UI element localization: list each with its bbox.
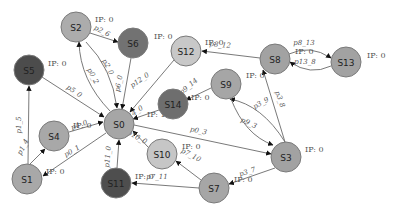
node-label: S0 <box>113 120 125 130</box>
node-s4[interactable]: S4IP: 0 <box>39 121 92 151</box>
node-ip-label: IP: 0 <box>305 145 324 154</box>
node-label: S11 <box>107 179 124 189</box>
edge-label: p0_2 <box>85 67 100 86</box>
node-label: S14 <box>164 100 181 110</box>
edge-label: p9_3 <box>240 116 259 131</box>
edge-label: p2_0 <box>100 58 115 77</box>
node-s5[interactable]: S5IP: 0 <box>14 55 67 85</box>
edge-label: p6_0 <box>114 74 125 93</box>
network-diagram: p2_6p2_0p0_2p6_0p12_0p5_0p14_0p1_5p1_4p4… <box>0 0 396 213</box>
node-s13[interactable]: S13IP: 0 <box>331 47 386 77</box>
nodes-layer: S0IP: 1S1IP: 0S2IP: 0S3IP: 0S4IP: 0S5IP:… <box>12 12 386 203</box>
edge-p11-0 <box>117 140 119 168</box>
edge-label: p3_9 <box>252 95 271 111</box>
node-label: S3 <box>280 153 291 163</box>
node-label: S7 <box>208 184 219 194</box>
node-label: S13 <box>337 58 354 68</box>
node-ip-label: IP: 0 <box>182 142 201 151</box>
node-label: S9 <box>220 80 232 90</box>
node-ip-label: IP: 0 <box>95 15 114 24</box>
edge-p1-4 <box>30 149 45 164</box>
node-ip-label: IP: 0 <box>191 93 210 102</box>
node-ip-label: IP: 0 <box>48 59 67 68</box>
edge-label: p13_8 <box>294 58 316 66</box>
edge-p7-11 <box>132 183 199 188</box>
node-label: S10 <box>153 150 170 160</box>
edge-p7-10 <box>176 161 201 180</box>
node-s3[interactable]: S3IP: 0 <box>271 142 324 172</box>
node-ip-label: IP: 0 <box>135 172 154 181</box>
node-label: S5 <box>23 66 34 76</box>
node-label: S6 <box>127 39 139 49</box>
edge-label: p8_13 <box>293 39 315 47</box>
node-label: S2 <box>70 23 81 33</box>
node-ip-label: IP: 0 <box>154 32 173 41</box>
node-ip-label: IP: 0 <box>73 121 92 130</box>
node-ip-label: IP: 0 <box>234 175 253 184</box>
node-label: S4 <box>48 132 60 142</box>
node-s7[interactable]: S7IP: 0 <box>199 173 253 203</box>
node-label: S12 <box>177 47 194 57</box>
edge-label: p0_3 <box>189 125 208 136</box>
node-ip-label: IP: 0 <box>367 51 386 60</box>
node-s11[interactable]: S11IP: 0 <box>101 168 154 198</box>
node-ip-label: IP: 0 <box>295 47 314 56</box>
edge-label: p5_0 <box>65 83 84 100</box>
edge-p8-12 <box>202 51 260 58</box>
node-s9[interactable]: S9IP: 0 <box>211 69 265 99</box>
edge-label: p11_0 <box>103 145 113 168</box>
edge-label: p12_0 <box>129 71 152 90</box>
node-s12[interactable]: S12IP: 0 <box>171 36 224 66</box>
edge-label: p1_5 <box>15 116 23 133</box>
edge-p1-5 <box>28 86 29 164</box>
node-label: S8 <box>269 55 281 65</box>
node-s6[interactable]: S6IP: 0 <box>118 28 173 58</box>
node-s14[interactable]: S14IP: 0 <box>158 89 210 119</box>
node-ip-label: IP: 0 <box>246 71 265 80</box>
edge-label: p3_8 <box>273 90 286 109</box>
node-label: S1 <box>21 175 32 185</box>
node-ip-label: IP: 0 <box>46 167 65 176</box>
node-ip-label: IP: 0 <box>205 38 224 47</box>
node-s1[interactable]: S1IP: 0 <box>12 164 65 194</box>
